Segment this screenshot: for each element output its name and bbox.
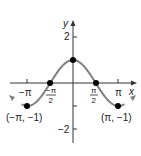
x-tick-label-neg-half-num: −π (46, 86, 57, 95)
left-curve-arrow-icon (9, 95, 15, 101)
point-zero (70, 57, 76, 63)
cosine-graph: y 2 −2 x −π π −π 2 π 2 (−π, −1) (π, −1) (0, 0, 141, 156)
x-tick-label-half-den: 2 (92, 96, 97, 105)
x-axis-label: x (128, 86, 135, 97)
point-neg-pi (24, 103, 30, 109)
x-tick-label-neg-pi: −π (19, 87, 32, 98)
point-label-right: (π, −1) (101, 112, 132, 123)
x-axis-arrow-icon (131, 81, 137, 86)
y-axis-label: y (62, 18, 69, 29)
y-axis-arrow-icon (71, 20, 76, 26)
y-tick-label-neg2: −2 (58, 124, 70, 135)
y-tick-label-2: 2 (64, 31, 70, 42)
x-tick-label-pi: π (115, 87, 122, 98)
x-tick-label-neg-half-den: 2 (49, 96, 54, 105)
point-pi (115, 103, 121, 109)
point-label-left: (−π, −1) (6, 112, 42, 123)
x-tick-label-half-num: π (91, 86, 97, 95)
